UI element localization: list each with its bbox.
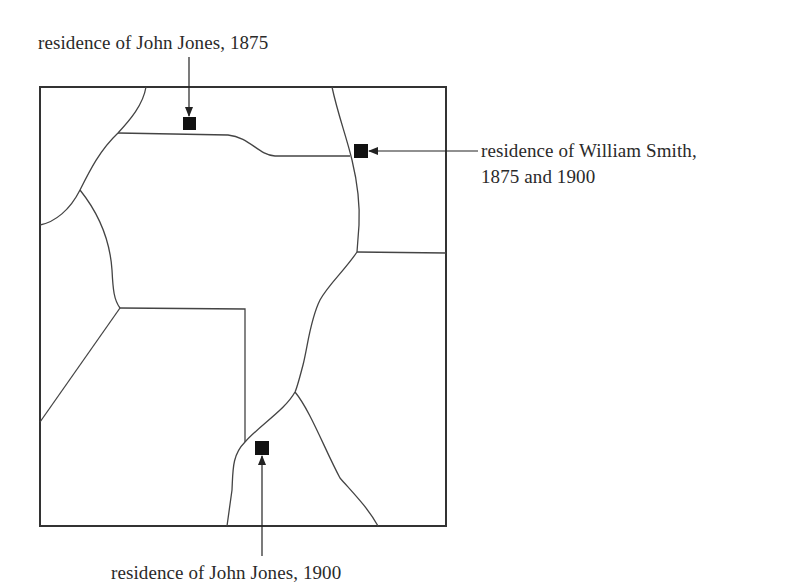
parcel-boundaries [40, 87, 446, 526]
label-smith-line1: residence of William Smith, [481, 139, 697, 163]
label-jones-1900: residence of John Jones, 1900 [111, 561, 341, 585]
boundary-left-interior-curve [80, 190, 120, 308]
marker-smith [354, 144, 368, 158]
boundary-center-horizontal [120, 308, 245, 442]
label-smith-line2: 1875 and 1900 [481, 165, 595, 189]
marker-jones-1875 [183, 117, 196, 130]
marker-jones-1900 [255, 441, 269, 455]
boundary-central-curve [227, 252, 357, 526]
boundary-topleft-curve [40, 87, 146, 225]
boundary-top-road [118, 133, 350, 156]
boundary-right-horizontal [357, 252, 446, 253]
parcel-map [0, 0, 809, 588]
boundary-lower-right-branch [295, 392, 378, 526]
boundary-lower-left-diagonal [40, 308, 120, 422]
label-jones-1875: residence of John Jones, 1875 [38, 31, 268, 55]
boundary-right-curve [332, 87, 359, 252]
